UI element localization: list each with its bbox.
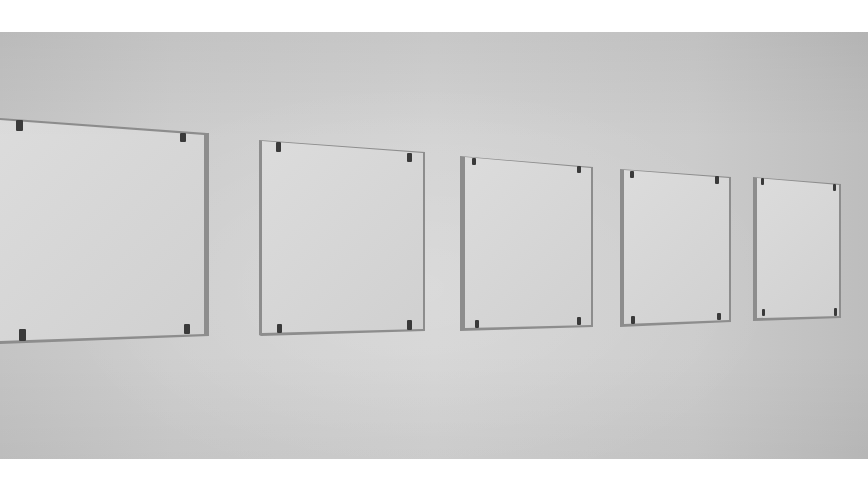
artwork-panel-1 — [0, 118, 209, 344]
corner-clip-icon — [717, 313, 721, 320]
corner-clip-icon — [475, 320, 479, 328]
corner-clip-icon — [472, 158, 476, 165]
corner-clip-icon — [631, 316, 635, 324]
corner-clip-icon — [833, 184, 836, 191]
corner-clip-icon — [834, 308, 837, 316]
artwork-panel-5 — [753, 177, 841, 321]
corner-clip-icon — [276, 142, 281, 152]
corner-clip-icon — [19, 329, 26, 341]
corner-clip-icon — [16, 120, 23, 131]
corner-clip-icon — [630, 171, 634, 178]
corner-clip-icon — [277, 324, 282, 333]
artwork-panel-2 — [259, 140, 425, 336]
corner-clip-icon — [407, 320, 412, 330]
artwork-panel-4 — [620, 169, 731, 327]
corner-clip-icon — [761, 178, 764, 185]
corner-clip-icon — [407, 153, 412, 162]
artwork-panel-3 — [460, 156, 593, 331]
corner-clip-icon — [762, 309, 765, 316]
corner-clip-icon — [577, 317, 581, 325]
image-frame — [0, 0, 868, 487]
corner-clip-icon — [577, 166, 581, 173]
corner-clip-icon — [715, 176, 719, 184]
gallery-wall-photo — [0, 32, 868, 459]
corner-clip-icon — [184, 324, 190, 334]
corner-clip-icon — [180, 133, 186, 142]
